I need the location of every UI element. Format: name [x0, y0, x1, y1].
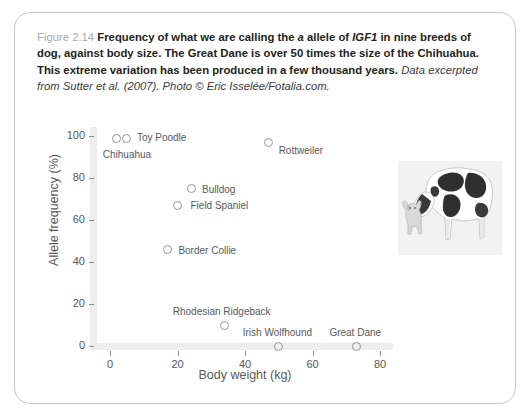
x-tick-mark — [380, 351, 381, 356]
data-point — [163, 245, 172, 254]
x-tick-label: 60 — [293, 358, 333, 370]
x-tick-mark — [313, 351, 314, 356]
data-point-label: Toy Poodle — [137, 132, 186, 143]
x-tick-mark — [245, 351, 246, 356]
x-axis-label: Body weight (kg) — [125, 368, 365, 382]
x-tick-mark — [178, 351, 179, 356]
data-point-label: Rhodesian Ridgeback — [173, 306, 271, 317]
data-point — [187, 184, 196, 193]
data-point-label: Border Collie — [178, 245, 236, 256]
great-dane-and-chihuahua-photo — [398, 161, 502, 255]
x-tick-label: 40 — [225, 358, 265, 370]
y-tick-mark — [89, 220, 94, 221]
data-point-label: Chihuahua — [103, 149, 151, 160]
data-point-label: Field Spaniel — [191, 200, 249, 211]
data-point-label: Great Dane — [329, 327, 381, 338]
x-tick-label: 80 — [360, 358, 400, 370]
y-tick-label: 80 — [51, 171, 85, 183]
x-tick-mark — [110, 351, 111, 356]
data-point — [112, 134, 121, 143]
y-tick-mark — [89, 346, 94, 347]
scatter-plot: Allele frequency (%) Body weight (kg) 02… — [15, 13, 517, 405]
y-tick-label: 0 — [51, 339, 85, 351]
y-tick-mark — [89, 262, 94, 263]
data-point — [264, 138, 273, 147]
y-tick-label: 40 — [51, 255, 85, 267]
y-tick-mark — [89, 136, 94, 137]
y-axis-line — [90, 127, 97, 349]
y-tick-mark — [89, 178, 94, 179]
y-tick-label: 20 — [51, 297, 85, 309]
figure-card: Figure 2.14 Frequency of what we are cal… — [14, 12, 516, 404]
x-axis-line — [90, 343, 393, 350]
data-point — [274, 342, 283, 351]
data-point — [122, 134, 131, 143]
data-point-label: Bulldog — [202, 184, 235, 195]
data-point-label: Rottweiler — [279, 145, 323, 156]
data-point-label: Irish Wolfhound — [243, 327, 312, 338]
data-point — [220, 321, 229, 330]
x-tick-label: 0 — [90, 358, 130, 370]
x-tick-label: 20 — [158, 358, 198, 370]
y-tick-mark — [89, 304, 94, 305]
y-tick-label: 60 — [51, 213, 85, 225]
y-tick-label: 100 — [51, 129, 85, 141]
data-point — [352, 342, 361, 351]
data-point — [173, 201, 182, 210]
